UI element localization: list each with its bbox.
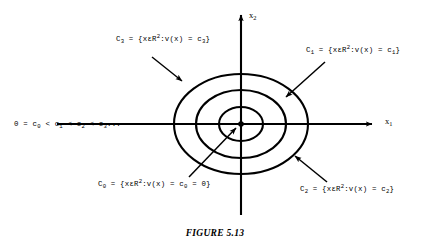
axis-label-x1: x1 xyxy=(385,116,392,126)
label-level-set-c2: C2 = {xεR2:v(x) = c2} xyxy=(300,186,394,193)
figure-container: x2 x1 C3 = {xεR2:v(x) = c3} C1 = {xεR2:v… xyxy=(0,0,430,250)
leader-lines xyxy=(152,57,327,182)
label-level-set-c3: C3 = {xεR2:v(x) = c3} xyxy=(116,36,210,43)
level-set-c0-origin-point xyxy=(238,121,244,127)
leader-line-c2 xyxy=(295,156,327,182)
axis-label-x2: x2 xyxy=(249,10,256,20)
label-level-set-c1: C1 = {xεR2:v(x) = c1} xyxy=(306,47,400,54)
leader-line-c3 xyxy=(152,57,182,81)
leader-line-c1 xyxy=(286,62,325,97)
figure-caption: FIGURE 5.13 xyxy=(0,228,430,238)
label-level-ordering: 0 = c0 < c1 < c2 < c3... xyxy=(14,121,121,128)
label-level-set-c0: C0 = {xεR2:v(x) = c0 = 0} xyxy=(98,181,211,188)
